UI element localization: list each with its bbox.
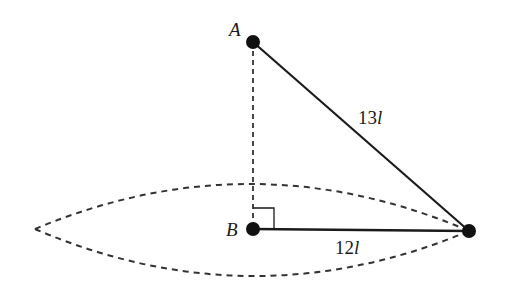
label-ac-length: 13l [358,107,382,128]
point-a [246,35,260,49]
segment-bc [253,229,469,231]
label-bc-length: 12l [335,237,359,258]
point-c [462,224,476,238]
lens-lower-arc [35,229,469,276]
point-b [246,222,260,236]
label-a: A [227,19,241,40]
geometry-diagram: A B 13l 12l [0,0,506,283]
label-b: B [226,219,238,240]
segment-ac [253,42,469,231]
